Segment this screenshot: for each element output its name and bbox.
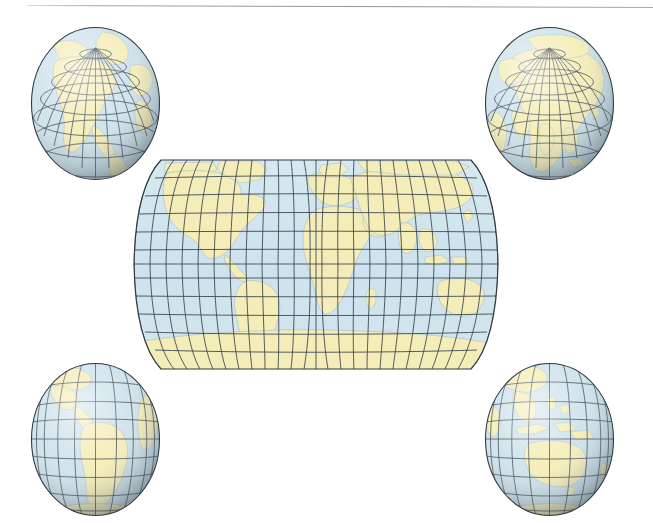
globe-asia [484, 26, 615, 181]
map-figure [0, 0, 653, 523]
page-edge-line-artifact [27, 5, 653, 8]
globe-north-america [30, 26, 161, 181]
globe-australia [484, 362, 615, 517]
globe-south-america [30, 362, 161, 517]
robinson-world-map [125, 157, 507, 372]
